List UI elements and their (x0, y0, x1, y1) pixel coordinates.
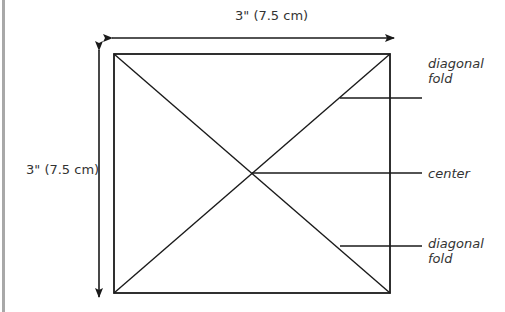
height-dimension-label: 3" (7.5 cm) (26, 162, 99, 177)
width-dimension-label: 3" (7.5 cm) (235, 8, 308, 23)
callout-center: center (428, 166, 470, 181)
callout-leader-lines (252, 98, 422, 246)
callout-diagonal-fold-lower: diagonal fold (428, 236, 498, 266)
callout-diagonal-fold-upper: diagonal fold (428, 56, 498, 86)
